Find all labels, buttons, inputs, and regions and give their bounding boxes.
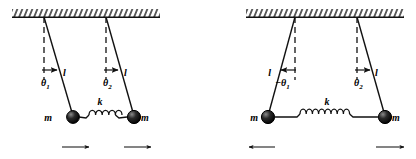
angle-label-2-left: θ2 [103,77,112,91]
figure-canvas: l θ1 m l θ2 m k [0,0,416,159]
rod-1-left [44,17,73,116]
spring-right [274,109,379,117]
rod-2-right [357,17,385,116]
bob-2-left [127,110,140,123]
pendulum-2-right: l θ2 m [354,17,400,124]
length-label-2-right: l [375,67,378,78]
length-label-2-left: l [124,67,127,78]
length-label-1-left: l [63,67,66,78]
coupled-pendulum-diagram: l θ1 m l θ2 m k [0,0,416,159]
angle-label-2-right: θ2 [354,77,363,91]
angle-label-1-right: −θ1 [275,77,290,91]
length-label-1-right: l [268,67,271,78]
spring-left [79,110,127,118]
bob-1-left [67,111,80,124]
bob-1-right [261,110,274,123]
pendulum-1-right: l −θ1 m [250,17,296,124]
angle-label-1-left: θ1 [41,77,50,91]
spring-label-left: k [98,96,103,107]
bob-2-right [378,110,391,123]
hatched-ceiling-right [246,9,404,17]
spring-label-right: k [325,96,330,107]
mass-label-1-left: m [44,112,52,123]
pendulum-2-left: l θ2 m [103,17,149,124]
mass-label-2-left: m [141,112,149,123]
panel-right: l −θ1 m l θ2 m k [246,9,404,147]
rod-1-right [268,17,295,116]
mass-label-2-right: m [392,112,400,123]
panel-left: l θ1 m l θ2 m k [12,9,160,147]
hatched-ceiling-left [12,9,160,17]
mass-label-1-right: m [250,112,258,123]
pendulum-1-left: l θ1 m [41,17,79,123]
rod-2-left [106,17,134,116]
